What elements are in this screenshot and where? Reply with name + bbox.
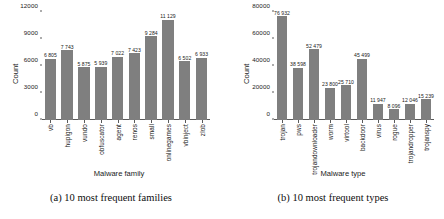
x-tick-label: virtool	[343, 124, 350, 142]
x-tick-slot: hupigon	[59, 120, 76, 168]
bar: 7 423	[129, 53, 140, 120]
x-tick-mark	[134, 120, 135, 123]
x-tick-mark	[50, 120, 51, 123]
bar-value-label: 11 129	[160, 13, 176, 19]
x-tick-slot: virus	[370, 120, 386, 168]
x-tick-mark	[314, 120, 315, 123]
bar-value-label: 15 239	[418, 93, 434, 99]
panel-a-plot-area: 6 8057 7435 8755 9397 0227 4239 28411 12…	[42, 12, 210, 120]
x-tick-label: small	[148, 124, 155, 139]
bar-slot: 7 423	[126, 12, 143, 120]
x-tick-label: agent	[114, 124, 121, 141]
y-tick-mark	[272, 65, 275, 66]
bar-slot: 52 479	[306, 12, 322, 120]
bar: 5 875	[78, 67, 89, 120]
x-tick-mark	[202, 120, 203, 123]
bar: 6 502	[179, 61, 190, 120]
x-tick-label: vundo	[80, 124, 87, 142]
y-tick-label: 9000	[24, 29, 38, 36]
bar-value-label: 38 598	[290, 61, 306, 67]
x-tick-mark	[151, 120, 152, 123]
x-tick-slot: vundo	[76, 120, 93, 168]
x-tick-mark	[330, 120, 331, 123]
x-tick-slot: pws	[290, 120, 306, 168]
x-tick-slot: trojandropper	[402, 120, 418, 168]
bar: 9 284	[145, 36, 156, 120]
x-tick-mark	[426, 120, 427, 123]
bar-value-label: 11 947	[370, 97, 386, 103]
panel-a-malware-families: Count 6 8057 7435 8755 9397 0227 4239 28…	[0, 0, 222, 219]
x-tick-slot: obfuscator	[92, 120, 109, 168]
bar-slot: 11 129	[160, 12, 177, 120]
panel-b-x-axis-title: Malware type	[232, 169, 444, 178]
bar: 11 947	[373, 104, 384, 120]
x-tick-mark	[118, 120, 119, 123]
x-tick-label: virus	[375, 124, 382, 138]
x-tick-mark	[394, 120, 395, 123]
x-tick-mark	[346, 120, 347, 123]
y-tick-mark	[40, 92, 43, 93]
bar: 38 598	[293, 68, 304, 120]
x-tick-mark	[168, 120, 169, 123]
bar-value-label: 12 046	[402, 97, 418, 103]
x-tick-slot: worm	[322, 120, 338, 168]
x-tick-mark	[378, 120, 379, 123]
bar-value-label: 7 423	[128, 47, 141, 53]
bar-slot: 23 800	[322, 12, 338, 120]
bar: 6 933	[196, 58, 207, 120]
y-tick-label: 40000	[252, 56, 270, 63]
bar-value-label: 6 502	[178, 55, 191, 61]
bar-value-label: 45 499	[354, 52, 370, 58]
x-tick-label: trojanspy	[423, 124, 430, 151]
bar: 5 939	[95, 67, 106, 120]
bar-value-label: 6 805	[44, 52, 57, 58]
bar: 7 022	[112, 57, 123, 120]
bar: 8 096	[389, 109, 400, 120]
bar: 12 046	[405, 104, 416, 120]
y-tick-mark	[40, 65, 43, 66]
x-tick-slot: trojanspy	[418, 120, 434, 168]
panel-a-x-tick-labels: vbhupigonvundoobfuscatoragentrenossmallo…	[42, 120, 210, 168]
bar-value-label: 23 800	[322, 81, 338, 87]
bar: 11 129	[162, 20, 173, 120]
bar-value-label: 6 933	[195, 51, 208, 57]
bar: 25 710	[341, 85, 352, 120]
bar-slot: 7 022	[109, 12, 126, 120]
bar-slot: 6 933	[193, 12, 210, 120]
panel-b-y-axis-title: Count	[242, 64, 251, 84]
panel-a-x-axis-title: Malware family	[8, 169, 230, 178]
x-tick-slot: vb	[42, 120, 59, 168]
bar-slot: 5 939	[92, 12, 109, 120]
x-tick-label: worm	[327, 124, 334, 140]
x-tick-slot: onlinegames	[160, 120, 177, 168]
panel-b-caption: (b) 10 most frequent types	[222, 192, 444, 203]
y-tick-label: 20000	[252, 83, 270, 90]
figure-two-panel-bar-charts: Count 6 8057 7435 8755 9397 0227 4239 28…	[0, 0, 444, 219]
x-tick-label: hupigon	[64, 124, 71, 147]
y-tick-mark	[40, 38, 43, 39]
y-tick-label: 3000	[24, 83, 38, 90]
x-tick-label: zlob	[198, 124, 205, 136]
panel-b-malware-types: Count 76 93238 59852 47923 80025 71045 4…	[222, 0, 444, 219]
x-tick-mark	[185, 120, 186, 123]
y-tick-mark	[272, 38, 275, 39]
x-tick-slot: virtool	[338, 120, 354, 168]
x-tick-slot: renos	[126, 120, 143, 168]
x-tick-mark	[410, 120, 411, 123]
y-tick-label: 60000	[252, 29, 270, 36]
y-tick-mark	[272, 11, 275, 12]
x-tick-mark	[67, 120, 68, 123]
bar: 23 800	[325, 88, 336, 120]
x-tick-label: trojandownloader	[311, 124, 318, 175]
bar: 6 805	[45, 59, 56, 120]
y-tick-label: 0	[34, 110, 38, 117]
bar-value-label: 25 710	[338, 79, 354, 85]
bar-value-label: 7 743	[61, 44, 74, 50]
bar-slot: 15 239	[418, 12, 434, 120]
bar-value-label: 7 022	[111, 50, 124, 56]
bar: 7 743	[61, 50, 72, 120]
bar: 15 239	[421, 99, 432, 120]
x-tick-label: backdoor	[359, 124, 366, 151]
bar-slot: 45 499	[354, 12, 370, 120]
y-tick-label: 80000	[252, 2, 270, 9]
